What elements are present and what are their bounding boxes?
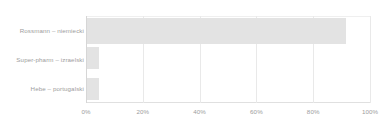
bar-rossmann [87, 18, 346, 44]
bar-super-pharm [87, 47, 99, 69]
xtick-label-100: 100% [362, 108, 378, 116]
bar-chart: Rossmann – niemiecki Super-pharm – izrae… [0, 0, 387, 121]
xtick-label-20: 20% [136, 108, 149, 116]
category-label-1: Super-pharm – izraelski [16, 56, 84, 63]
bar-hebe [87, 78, 99, 100]
gridline-100 [370, 16, 371, 103]
xtick-label-40: 40% [193, 108, 206, 116]
plot-area [86, 16, 371, 103]
xtick-label-60: 60% [250, 108, 263, 116]
xtick-label-80: 80% [307, 108, 320, 116]
category-label-0: Rossmann – niemiecki [20, 27, 84, 34]
xtick-label-0: 0% [81, 108, 90, 116]
category-label-2: Hebe – portugalski [31, 85, 84, 92]
